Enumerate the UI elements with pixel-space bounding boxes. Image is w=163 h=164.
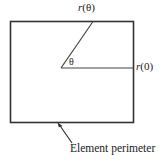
- radius-zero-label: r(0): [136, 61, 153, 72]
- perimeter-leader-line: [60, 125, 73, 143]
- radius-theta-ray: [61, 22, 93, 69]
- radius-theta-label: r(θ): [78, 2, 95, 13]
- radius-theta-argument: (θ): [82, 1, 95, 13]
- element-perimeter-caption: Element perimeter: [70, 143, 155, 155]
- element-perimeter-rectangle: [11, 22, 134, 123]
- angle-theta-label: θ: [69, 57, 74, 67]
- diagram-vector-layer: [0, 0, 163, 164]
- diagram-canvas: r(θ) r(0) θ Element perimeter: [0, 0, 163, 164]
- radius-zero-argument: (0): [140, 60, 153, 72]
